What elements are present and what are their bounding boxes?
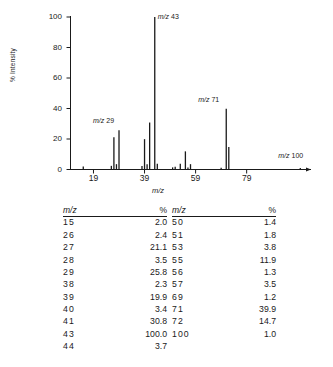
y-tick-label-60: 60	[36, 73, 62, 82]
table-row: 4130.8	[63, 316, 167, 328]
annotation-mz-text: m/z	[198, 96, 209, 103]
cell-mz: 55	[172, 254, 214, 266]
column-header-mz: m/z	[63, 205, 105, 217]
y-tick-label-0: 0	[36, 165, 62, 174]
table-row: 561.3	[172, 267, 276, 279]
table-row: 7214.7	[172, 316, 276, 328]
table-row: 262.4	[63, 229, 167, 241]
cell-mz: 38	[63, 279, 105, 291]
annotation-value-text: 71	[211, 96, 219, 103]
cell-mz: 40	[63, 304, 105, 316]
peak-annotation-71: m/z 71	[198, 96, 219, 103]
cell-mz: 28	[63, 254, 105, 266]
cell-mz: 56	[172, 267, 214, 279]
y-tick-label-100: 100	[36, 12, 62, 21]
x-axis-title: m/z	[152, 186, 164, 195]
table-row: 533.8	[172, 242, 276, 254]
cell-mz: 44	[63, 341, 105, 353]
cell-percent: 3.7	[105, 341, 167, 353]
table-row: 43100.0	[63, 328, 167, 340]
table-row: 501.4	[172, 217, 276, 230]
table-header-row: m/z %	[172, 205, 276, 217]
cell-percent: 3.8	[214, 242, 276, 254]
x-tick-label-19: 19	[81, 173, 105, 183]
cell-percent: 21.1	[105, 242, 167, 254]
peak-data-table: m/z % 152.0262.42721.1283.52925.8382.339…	[0, 205, 333, 367]
table-row: 2721.1	[63, 242, 167, 254]
cell-percent: 14.7	[214, 316, 276, 328]
table-row: 1001.0	[172, 328, 276, 340]
cell-percent: 1.4	[214, 217, 276, 230]
table-row: 691.2	[172, 291, 276, 303]
table-row: 152.0	[63, 217, 167, 230]
cell-percent: 1.8	[214, 229, 276, 241]
table-header-row: m/z %	[63, 205, 167, 217]
cell-percent: 25.8	[105, 267, 167, 279]
cell-mz: 51	[172, 229, 214, 241]
cell-mz: 53	[172, 242, 214, 254]
cell-percent: 1.2	[214, 291, 276, 303]
y-tick-label-80: 80	[36, 43, 62, 52]
cell-mz: 15	[63, 217, 105, 230]
table-row: 5511.9	[172, 254, 276, 266]
peak-lines	[83, 17, 300, 170]
table-row: 7139.9	[172, 304, 276, 316]
peak-annotation-100: m/z 100	[278, 152, 303, 159]
cell-mz: 26	[63, 229, 105, 241]
cell-percent: 100.0	[105, 328, 167, 340]
table-row: 573.5	[172, 279, 276, 291]
cell-mz: 43	[63, 328, 105, 340]
cell-percent: 11.9	[214, 254, 276, 266]
table-row: 443.7	[63, 341, 167, 353]
table-body-right: 501.4511.8533.85511.9561.3573.5691.27139…	[172, 217, 276, 341]
cell-mz: 71	[172, 304, 214, 316]
annotation-mz-text: m/z	[93, 117, 104, 124]
peak-table-left: m/z % 152.0262.42721.1283.52925.8382.339…	[63, 205, 167, 353]
cell-mz: 57	[172, 279, 214, 291]
table-row: 3919.9	[63, 291, 167, 303]
table-body-left: 152.0262.42721.1283.52925.8382.33919.940…	[63, 217, 167, 354]
x-tick-label-39: 39	[133, 173, 157, 183]
column-header-mz: m/z	[172, 205, 214, 217]
mass-spectrum-chart: % Intensity m/z 100 80 60 40 20 0 19 39 …	[0, 0, 333, 200]
cell-percent: 1.0	[214, 328, 276, 340]
cell-percent: 3.5	[214, 279, 276, 291]
cell-percent: 3.4	[105, 304, 167, 316]
table-row: 511.8	[172, 229, 276, 241]
x-tick-label-79: 79	[235, 173, 259, 183]
annotation-value-text: 29	[106, 117, 114, 124]
table-row: 2925.8	[63, 267, 167, 279]
annotation-mz-text: m/z	[158, 13, 169, 20]
y-tick-label-40: 40	[36, 104, 62, 113]
y-tick-marks	[67, 17, 71, 170]
cell-percent: 19.9	[105, 291, 167, 303]
cell-percent: 2.0	[105, 217, 167, 230]
cell-mz: 39	[63, 291, 105, 303]
mass-spectrum-figure: % Intensity m/z 100 80 60 40 20 0 19 39 …	[0, 0, 333, 367]
annotation-value-text: 43	[171, 13, 179, 20]
cell-mz: 27	[63, 242, 105, 254]
annotation-mz-text: m/z	[278, 152, 289, 159]
cell-percent: 2.3	[105, 279, 167, 291]
table-row: 403.4	[63, 304, 167, 316]
column-header-percent: %	[105, 205, 167, 217]
column-header-percent: %	[214, 205, 276, 217]
cell-percent: 1.3	[214, 267, 276, 279]
peak-annotation-43: m/z 43	[158, 13, 179, 20]
peak-annotation-29: m/z 29	[93, 117, 114, 124]
cell-percent: 3.5	[105, 254, 167, 266]
table-row: 283.5	[63, 254, 167, 266]
cell-percent: 30.8	[105, 316, 167, 328]
peak-table-right: m/z % 501.4511.8533.85511.9561.3573.5691…	[172, 205, 276, 341]
table-row: 382.3	[63, 279, 167, 291]
cell-percent: 2.4	[105, 229, 167, 241]
cell-mz: 29	[63, 267, 105, 279]
y-axis-title: % Intensity	[9, 2, 16, 82]
cell-mz: 69	[172, 291, 214, 303]
cell-mz: 72	[172, 316, 214, 328]
annotation-value-text: 100	[292, 152, 304, 159]
cell-mz: 41	[63, 316, 105, 328]
x-tick-marks	[93, 170, 246, 174]
cell-mz: 100	[172, 328, 214, 340]
x-tick-label-59: 59	[184, 173, 208, 183]
